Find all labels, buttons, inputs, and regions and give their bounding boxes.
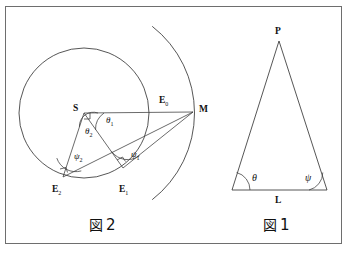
- fig2-label-e0-sub: 0: [165, 101, 168, 107]
- fig2-label-e2: E2: [52, 184, 61, 196]
- fig2-angle-arc-theta1: [95, 113, 104, 130]
- fig1-caption-number: 1: [277, 216, 290, 234]
- fig1-label-l: L: [275, 196, 281, 206]
- fig1-label-p: P: [275, 27, 281, 37]
- fig2-segment-s-m: [84, 112, 193, 113]
- fig2-label-psi2-sub: 2: [80, 157, 83, 163]
- fig2-label-psi1-sub: 1: [137, 155, 140, 161]
- figure-canvas: S M E0 E1 E2 θ1 θ2 ψ1 ψ2 P L θ ψ 図2 図1: [0, 0, 351, 255]
- fig2-caption: 図2: [89, 214, 116, 234]
- fig2-segment-m-e2: [63, 112, 193, 177]
- fig1-side-left: [232, 41, 279, 190]
- fig2-label-theta1-sub: 1: [110, 121, 113, 127]
- fig2-drawing: [0, 0, 351, 255]
- fig2-label-theta2-sub: 2: [89, 132, 92, 138]
- fig1-label-theta: θ: [252, 173, 257, 183]
- fig2-label-theta1: θ1: [106, 116, 113, 127]
- fig1-angle-arc-theta: [237, 173, 250, 191]
- fig2-label-psi1: ψ1: [131, 150, 140, 161]
- fig2-outer-arc: [152, 26, 194, 199]
- fig2-angle-tick-e2: [60, 168, 68, 173]
- fig1-caption: 図1: [263, 214, 290, 234]
- fig1-side-right: [279, 41, 327, 190]
- fig2-label-e2-sub: 2: [58, 190, 61, 196]
- fig2-label-e1: E1: [119, 184, 128, 196]
- fig2-label-m: M: [199, 105, 208, 115]
- fig1-label-psi: ψ: [305, 173, 311, 183]
- fig2-label-e1-sub: 1: [125, 190, 128, 196]
- fig2-label-e0: E0: [159, 95, 168, 107]
- fig2-label-s: S: [73, 104, 78, 114]
- fig2-caption-kanji: 図: [89, 217, 103, 233]
- fig2-caption-number: 2: [103, 216, 116, 234]
- fig2-label-psi2: ψ2: [74, 152, 83, 163]
- fig2-label-theta2: θ2: [85, 127, 92, 138]
- fig1-caption-kanji: 図: [263, 217, 277, 233]
